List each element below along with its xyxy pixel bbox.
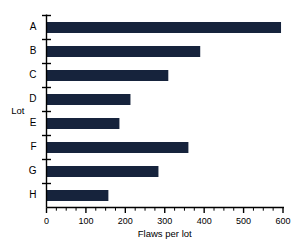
x-axis-title: Flaws per lot xyxy=(138,228,192,239)
bar-f xyxy=(47,142,189,153)
y-tick-label-c: C xyxy=(29,69,36,80)
chart-canvas: ABCDEFGH0100200300400500600Flaws per lot… xyxy=(0,0,298,246)
x-tick-label-200: 200 xyxy=(118,216,133,226)
y-tick-label-b: B xyxy=(30,45,37,56)
bar-c xyxy=(47,70,169,81)
bar-h xyxy=(47,190,109,201)
bar-e xyxy=(47,118,120,129)
x-tick-label-500: 500 xyxy=(236,216,251,226)
y-tick-label-d: D xyxy=(29,93,36,104)
y-tick-label-f: F xyxy=(30,141,36,152)
bar-g xyxy=(47,166,159,177)
x-tick-label-100: 100 xyxy=(78,216,93,226)
x-tick-label-300: 300 xyxy=(157,216,172,226)
y-tick-label-e: E xyxy=(30,117,37,128)
bar-chart: ABCDEFGH0100200300400500600Flaws per lot… xyxy=(0,0,298,246)
y-tick-label-g: G xyxy=(29,165,37,176)
y-tick-label-a: A xyxy=(30,21,37,32)
y-axis-title: Lot xyxy=(11,105,25,116)
bar-a xyxy=(47,22,282,33)
y-tick-label-h: H xyxy=(29,189,36,200)
x-tick-label-0: 0 xyxy=(44,216,49,226)
x-tick-label-400: 400 xyxy=(197,216,212,226)
bar-d xyxy=(47,94,131,105)
x-tick-label-600: 600 xyxy=(275,216,290,226)
bar-b xyxy=(47,46,201,57)
